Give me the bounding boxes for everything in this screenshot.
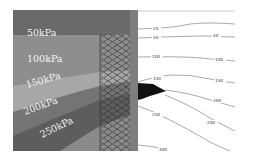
contour-labels: 25 50 50 100 100 150 150 200 200 250 300 [151,26,226,152]
contour-label-250: 250 [152,112,160,117]
contour-label-300: 300 [159,147,167,152]
contour-label-200: 200 [207,120,215,125]
pressure-figure: 50kPa 100kPa 150kPa 200kPa 250kPa 25 50 … [0,0,253,161]
contour-label-50: 50 [153,35,159,40]
black-wedge [138,83,166,100]
label-100kpa: 100kPa [27,53,63,64]
boundary-strip [130,10,138,151]
contour-label-200: 200 [213,98,221,103]
mesh-region [100,34,130,151]
contour-label-25: 25 [153,26,159,31]
contour-label-100: 100 [152,54,160,59]
label-50kpa: 50kPa [27,27,57,38]
contour-label-150: 150 [153,76,161,81]
contour-label-50: 50 [213,33,219,38]
contour-label-150: 150 [215,78,223,83]
contour-label-100: 100 [215,57,223,62]
